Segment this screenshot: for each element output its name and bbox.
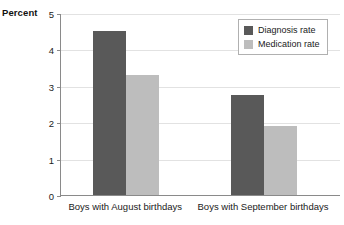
bar-chart: Percent 012345 Boys with August birthday… [0,0,344,225]
gridline [61,14,340,15]
legend-swatch-icon-diagnosis [244,26,253,35]
y-axis-tick-label: 3 [49,81,54,92]
bar-medication [264,126,297,195]
legend-item-medication: Medication rate [244,38,320,50]
y-axis-tick [57,160,61,161]
y-axis-tick [57,14,61,15]
legend-swatch-icon-medication [244,40,253,49]
chart-legend: Diagnosis rate Medication rate [238,19,328,55]
y-axis-tick-label: 0 [49,191,54,202]
legend-label-diagnosis: Diagnosis rate [258,25,316,35]
y-axis-tick [57,196,61,197]
x-axis-category-label: Boys with September birthdays [198,201,329,212]
y-axis-tick-label: 4 [49,45,54,56]
legend-item-diagnosis: Diagnosis rate [244,24,320,36]
bar-medication [126,75,159,195]
y-axis-tick [57,87,61,88]
y-axis-tick [57,123,61,124]
y-axis-tick-label: 2 [49,118,54,129]
bar-diagnosis [231,95,264,195]
y-axis-title: Percent [2,7,38,18]
legend-label-medication: Medication rate [258,39,320,49]
y-axis-tick-label: 1 [49,154,54,165]
y-axis-tick [57,50,61,51]
y-axis-tick-label: 5 [49,9,54,20]
x-axis-category-label: Boys with August birthdays [68,201,182,212]
bar-diagnosis [93,31,126,195]
